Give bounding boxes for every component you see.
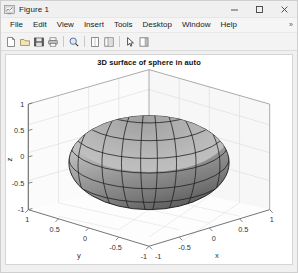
zoom-in-icon[interactable] — [67, 35, 80, 48]
figure-icon — [4, 4, 15, 15]
close-icon[interactable] — [272, 1, 297, 17]
print-figure-icon[interactable] — [46, 35, 59, 48]
figure-canvas-area: 3D surface of sphere in auto — [1, 51, 297, 272]
menu-bar: File Edit View Insert Tools Desktop Wind… — [1, 18, 297, 33]
y-axis-label: y — [77, 251, 81, 260]
minimize-icon[interactable] — [222, 1, 247, 17]
open-file-icon[interactable] — [18, 35, 31, 48]
menu-item-help[interactable]: Help — [215, 18, 241, 32]
z-axis-label: z — [6, 157, 14, 161]
x-tick-label--1: -1 — [155, 252, 161, 261]
edit-plot-icon[interactable] — [123, 35, 136, 48]
menu-item-file[interactable]: File — [5, 18, 28, 32]
toolbar-separator-2 — [84, 36, 85, 47]
z-tick-label-0: 0 — [20, 152, 24, 161]
x-tick-label-1: 1 — [270, 215, 274, 224]
title-bar: Figure 1 — [1, 1, 297, 18]
x-tick-label-0.5: 0.5 — [238, 225, 248, 234]
axes-3d[interactable]: -1 -0.5 0 0.5 1 z 1 — [6, 55, 292, 264]
z-tick-label--1: -1 — [18, 205, 24, 214]
z-tick-label--0.5: -0.5 — [12, 179, 25, 188]
z-tick-label-1: 1 — [20, 100, 24, 109]
y-tick-label-1: 1 — [25, 215, 29, 224]
menu-item-tools[interactable]: Tools — [109, 18, 138, 32]
y-tick-label-0: 0 — [83, 234, 87, 243]
menu-item-window[interactable]: Window — [177, 18, 215, 32]
x-axis-label: x — [215, 251, 219, 260]
y-tick-label-0.5: 0.5 — [50, 225, 60, 234]
x-tick-label--0.5: -0.5 — [178, 243, 191, 252]
menu-item-view[interactable]: View — [52, 18, 79, 32]
new-figure-icon[interactable] — [4, 35, 17, 48]
toolbar-separator-1 — [63, 36, 64, 47]
menu-item-insert[interactable]: Insert — [79, 18, 109, 32]
save-figure-icon[interactable] — [32, 35, 45, 48]
insert-colorbar-icon[interactable] — [137, 35, 150, 48]
z-tick-label-0.5: 0.5 — [14, 126, 24, 135]
window-controls — [222, 1, 297, 17]
data-cursor-icon[interactable] — [88, 35, 101, 48]
x-tick-label-0: 0 — [212, 234, 216, 243]
window-title: Figure 1 — [19, 5, 49, 14]
figure-window: Figure 1 File Edit View — [0, 0, 298, 273]
y-tick-label--1: -1 — [141, 252, 147, 261]
toolbar-separator-3 — [119, 36, 120, 47]
figure-panel[interactable]: 3D surface of sphere in auto — [5, 54, 293, 265]
tool-bar — [1, 33, 297, 51]
menu-item-desktop[interactable]: Desktop — [138, 18, 177, 32]
menu-overflow-chevron-icon[interactable]: » — [289, 18, 293, 32]
menu-item-edit[interactable]: Edit — [28, 18, 52, 32]
maximize-icon[interactable] — [247, 1, 272, 17]
y-tick-label--0.5: -0.5 — [109, 243, 122, 252]
insert-legend-icon[interactable] — [102, 35, 115, 48]
